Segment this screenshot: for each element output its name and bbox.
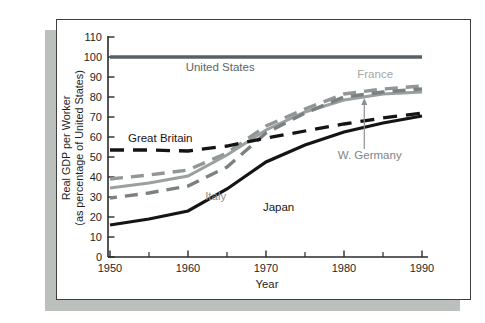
label-united-states: United States — [186, 61, 255, 73]
y-tick-label-20: 20 — [90, 211, 102, 223]
y-tick-label-110: 110 — [84, 31, 102, 43]
y-tick-label-90: 90 — [90, 71, 102, 83]
label-italy: Italy — [205, 190, 226, 202]
y-tick-label-80: 80 — [90, 91, 102, 103]
y-axis-title-line1: Real GDP per Worker — [60, 95, 72, 200]
x-tick-label-1950: 1950 — [98, 262, 122, 274]
y-axis-title-line2: (as percentage of United States) — [73, 70, 85, 225]
x-tick-label-1990: 1990 — [410, 262, 434, 274]
y-tick-label-10: 10 — [90, 231, 102, 243]
label-japan: Japan — [263, 201, 294, 213]
y-tick-label-50: 50 — [90, 151, 102, 163]
x-tick-label-1970: 1970 — [254, 262, 278, 274]
x-tick-label-1980: 1980 — [332, 262, 356, 274]
y-tick-label-100: 100 — [84, 51, 102, 63]
y-tick-label-60: 60 — [90, 131, 102, 143]
label-france: France — [357, 68, 393, 80]
label-great-britain: Great Britain — [128, 132, 193, 144]
x-axis-title: Year — [256, 278, 279, 290]
y-tick-label-70: 70 — [90, 111, 102, 123]
label-w-germany: W. Germany — [338, 149, 402, 161]
gdp-convergence-chart: 0102030405060708090100110195019601970198… — [0, 0, 485, 323]
screenshot-canvas: 0102030405060708090100110195019601970198… — [0, 0, 485, 323]
x-tick-label-1960: 1960 — [176, 262, 200, 274]
y-tick-label-30: 30 — [90, 191, 102, 203]
y-tick-label-40: 40 — [90, 171, 102, 183]
wgermany-arrow-head — [361, 98, 367, 105]
